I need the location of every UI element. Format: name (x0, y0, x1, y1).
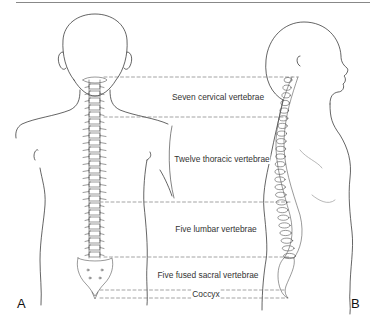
left-shoulder (16, 90, 80, 138)
transverse-process (83, 129, 106, 130)
transverse-process (85, 241, 104, 242)
transverse-process (85, 206, 104, 207)
transverse-process (83, 171, 106, 172)
vertebra (89, 231, 100, 236)
vertebra (89, 245, 100, 250)
transverse-process (85, 227, 104, 228)
ear-b (297, 56, 300, 66)
atlas-a (83, 77, 107, 83)
right-torso (144, 160, 148, 305)
vertebra (277, 131, 286, 136)
sacrum-b (278, 258, 294, 298)
label-sacral: Five fused sacral vertebrae (156, 270, 259, 280)
vertebra (89, 252, 100, 257)
shoulder-b (300, 150, 322, 168)
transverse-process (83, 199, 106, 200)
left-torso (40, 168, 45, 305)
lateral-spine (275, 77, 302, 298)
label-coccyx: Coccyx (191, 289, 220, 299)
sacral-foramen (87, 269, 89, 271)
right-shoulder (110, 90, 168, 124)
vertebra (89, 161, 100, 166)
transverse-process (85, 87, 104, 88)
vertebra (278, 215, 289, 220)
vertebra (89, 147, 100, 152)
transverse-process (85, 220, 104, 221)
vertebra (275, 185, 285, 190)
sacral-foramen (99, 277, 101, 279)
vertebra (275, 162, 285, 167)
vertebra (89, 175, 100, 180)
transverse-process (83, 157, 106, 158)
spine-curve-front (284, 77, 302, 258)
transverse-process (83, 150, 106, 151)
vertebra (277, 208, 288, 213)
posterior-vertebrae (83, 84, 106, 257)
transverse-process (85, 101, 104, 102)
vertebra (89, 217, 100, 222)
panel-label-b: B (351, 296, 360, 311)
vertebra (89, 168, 100, 173)
arm-hint-b (312, 195, 335, 203)
head-outline-b (266, 22, 348, 104)
vertebra (276, 154, 286, 159)
transverse-process (83, 164, 106, 165)
vertebra (89, 140, 100, 145)
label-lumbar: Five lumbar vertebrae (174, 224, 257, 234)
vertebra (89, 238, 100, 243)
vertebra (280, 108, 289, 113)
right-arm-crease (147, 152, 151, 160)
vertebra (280, 230, 291, 235)
vertebra (279, 223, 290, 228)
label-cervical: Seven cervical vertebrae (171, 92, 265, 102)
transverse-process (85, 255, 104, 256)
transverse-process (83, 178, 106, 179)
label-thoracic: Twelve thoracic vertebrae (173, 154, 270, 164)
vertebra (282, 93, 290, 98)
posterior-body-outline (16, 14, 172, 305)
vertebra (89, 133, 100, 138)
posterior-spine (77, 77, 112, 299)
vertebra (89, 84, 100, 89)
front-neck-chest (330, 104, 353, 314)
vertebra (275, 169, 285, 174)
transverse-process (83, 143, 106, 144)
vertebra (89, 119, 100, 124)
vertebra (278, 123, 287, 128)
vertebra (89, 224, 100, 229)
vertebra (89, 196, 100, 201)
left-arm-line (34, 150, 38, 160)
vertebra (89, 210, 100, 215)
vertebra (276, 200, 287, 205)
vertebra (89, 105, 100, 110)
vertebra (89, 189, 100, 194)
transverse-process (85, 213, 104, 214)
vertebra (89, 126, 100, 131)
vertebra (89, 182, 100, 187)
transverse-process (85, 108, 104, 109)
panel-label-a: A (17, 296, 26, 311)
vertebra (277, 139, 286, 144)
transverse-process (85, 122, 104, 123)
sacral-foramen (101, 269, 103, 271)
vertebra (89, 112, 100, 117)
transverse-process (85, 248, 104, 249)
vertebra (89, 203, 100, 208)
sacral-foramen (89, 277, 91, 279)
lateral-body-outline (262, 22, 353, 314)
transverse-process (83, 192, 106, 193)
region-boundaries (100, 77, 298, 298)
vertebra (89, 154, 100, 159)
vertebra (89, 98, 100, 103)
transverse-process (83, 185, 106, 186)
transverse-process (85, 115, 104, 116)
transverse-process (83, 136, 106, 137)
transverse-process (85, 234, 104, 235)
